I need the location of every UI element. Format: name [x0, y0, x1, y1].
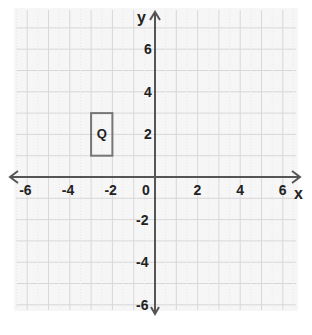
x-tick-label: 4	[236, 183, 244, 197]
y-tick-label: -4	[136, 255, 148, 269]
y-tick-label: 6	[144, 42, 152, 56]
shape-label-q: Q	[97, 127, 107, 140]
x-tick-label: -2	[104, 183, 116, 197]
y-tick-label: 4	[144, 85, 152, 99]
x-tick-label: -6	[19, 183, 31, 197]
x-tick-label: 2	[194, 183, 202, 197]
x-axis-label: x	[294, 186, 303, 202]
y-tick-label: 2	[144, 127, 152, 141]
x-tick-label: 6	[279, 183, 287, 197]
y-tick-label: -6	[136, 298, 148, 312]
y-axis-label: y	[137, 10, 146, 26]
coordinate-plane	[0, 0, 312, 335]
x-tick-label: -4	[62, 183, 74, 197]
x-tick-label: 0	[142, 183, 150, 197]
y-tick-label: -2	[136, 213, 148, 227]
